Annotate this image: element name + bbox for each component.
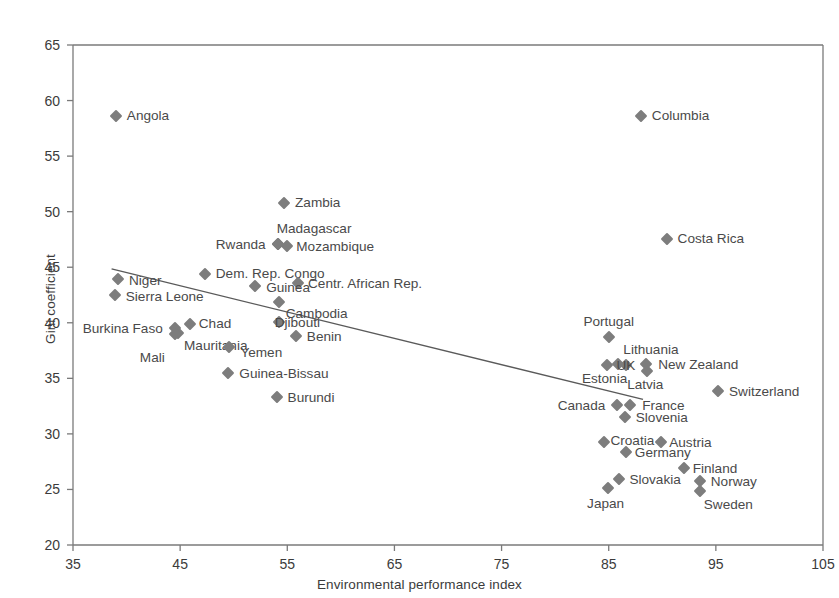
data-point-label: Sweden — [704, 498, 753, 512]
x-tick-label: 85 — [601, 556, 617, 572]
data-point-label: Burkina Faso — [83, 323, 163, 337]
data-point-label: Slovenia — [636, 411, 688, 425]
y-tick-label: 25 — [26, 481, 60, 497]
y-tick-label: 35 — [26, 370, 60, 386]
data-point-label: Portugal — [583, 315, 634, 329]
data-point-label: Mauritania — [184, 339, 247, 353]
data-point-label: Slovakia — [629, 474, 680, 488]
x-tick-label: 95 — [708, 556, 724, 572]
x-tick-label: 65 — [387, 556, 403, 572]
x-axis-title: Environmental performance index — [0, 577, 839, 592]
data-point-label: Guinea-Bissau — [239, 367, 328, 381]
data-point-label: Germany — [635, 446, 691, 460]
y-tick-label: 65 — [26, 37, 60, 53]
data-point-label: Japan — [587, 498, 624, 512]
data-point-label: Columbia — [652, 109, 709, 123]
y-tick-label: 20 — [26, 537, 60, 553]
data-point-label: Lithuania — [623, 343, 678, 357]
data-point-label: Norway — [711, 475, 757, 489]
data-point-label: UK — [616, 359, 635, 373]
data-point-label: Chad — [199, 317, 232, 331]
scatter-chart: Gini coefficient Environmental performan… — [0, 0, 839, 598]
x-tick-label: 55 — [279, 556, 295, 572]
data-point-label: Burundi — [288, 391, 335, 405]
y-tick-label: 30 — [26, 426, 60, 442]
y-tick-label: 50 — [26, 204, 60, 220]
data-point-label: Mali — [140, 351, 165, 365]
data-point-label: Switzerland — [729, 385, 799, 399]
data-point-label: Estonia — [582, 372, 627, 386]
data-point-label: Costa Rica — [678, 233, 744, 247]
y-tick-label: 40 — [26, 315, 60, 331]
data-point-label: Angola — [127, 109, 169, 123]
y-tick-label: 45 — [26, 259, 60, 275]
y-tick-label: 60 — [26, 93, 60, 109]
x-tick-label: 105 — [811, 556, 834, 572]
data-point-label: Centr. African Rep. — [308, 277, 422, 291]
x-tick-label: 45 — [172, 556, 188, 572]
x-tick-label: 35 — [65, 556, 81, 572]
data-point-label: Guinea — [266, 281, 310, 295]
x-tick-label: 75 — [494, 556, 510, 572]
data-point-label: New Zealand — [658, 358, 738, 372]
data-point-label: Yemen — [240, 346, 282, 360]
data-point-label: Canada — [558, 399, 606, 413]
data-point-label: Mozambique — [296, 240, 374, 254]
data-point-label: Niger — [129, 275, 161, 289]
data-point-label: Rwanda — [216, 238, 266, 252]
data-point-label: Sierra Leone — [126, 290, 204, 304]
data-point-label: Djibouti — [275, 316, 320, 330]
data-point-label: Benin — [307, 330, 342, 344]
data-point-label: Madagascar — [277, 222, 352, 236]
data-point-label: Latvia — [627, 378, 663, 392]
data-point-label: Zambia — [295, 196, 340, 210]
y-tick-label: 55 — [26, 148, 60, 164]
